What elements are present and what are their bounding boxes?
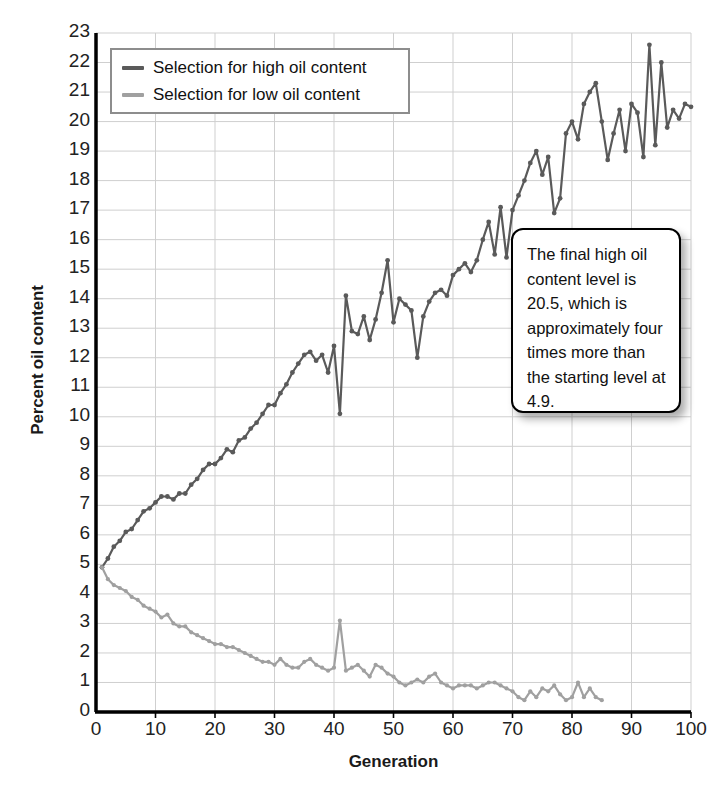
data-point [302, 660, 306, 664]
data-point [671, 107, 676, 112]
data-point [582, 695, 586, 699]
y-axis-tick-label: 19 [48, 138, 90, 160]
data-point [106, 556, 111, 561]
y-axis-tick-label: 12 [48, 345, 90, 367]
data-point [350, 329, 355, 334]
data-point [112, 583, 116, 587]
x-axis-tick-label: 30 [245, 718, 305, 740]
data-point [481, 683, 485, 687]
data-point [230, 450, 235, 455]
data-point [272, 663, 276, 667]
data-point [338, 411, 343, 416]
data-point [457, 267, 462, 272]
data-point [528, 161, 533, 166]
data-point [403, 302, 408, 307]
data-point [385, 258, 390, 263]
data-point [665, 125, 670, 130]
data-point [522, 698, 526, 702]
legend-item-low[interactable]: Selection for low oil content [122, 81, 400, 108]
data-point [469, 683, 473, 687]
legend-item-high[interactable]: Selection for high oil content [122, 54, 400, 81]
data-point [552, 683, 556, 687]
data-point [522, 178, 527, 183]
data-point [367, 338, 372, 343]
data-point [260, 411, 265, 416]
data-point [683, 102, 688, 107]
data-point [207, 639, 211, 643]
data-point [118, 586, 122, 590]
data-point [368, 675, 372, 679]
y-axis-tick-label: 13 [48, 315, 90, 337]
legend-label-high: Selection for high oil content [153, 58, 367, 78]
y-axis-tick-label: 9 [48, 433, 90, 455]
data-point [296, 666, 300, 670]
x-axis-tick-label: 10 [126, 718, 186, 740]
data-point [201, 636, 205, 640]
y-axis-tick-label: 4 [48, 581, 90, 603]
data-point [397, 296, 402, 301]
data-point [653, 143, 658, 148]
data-point [594, 695, 598, 699]
data-point [148, 607, 152, 611]
data-point [504, 255, 509, 260]
data-point [189, 482, 194, 487]
data-point [249, 654, 253, 658]
data-point [171, 497, 176, 502]
data-point [492, 252, 497, 257]
data-point [219, 456, 224, 461]
data-point [302, 352, 307, 357]
data-point [391, 320, 396, 325]
data-point [141, 509, 146, 514]
y-axis-tick-label: 15 [48, 256, 90, 278]
data-point [153, 610, 157, 614]
y-axis-tick-label: 14 [48, 286, 90, 308]
y-axis-tick-label: 8 [48, 463, 90, 485]
data-point [451, 686, 455, 690]
legend-swatch-high-icon [122, 66, 144, 70]
data-point [593, 81, 598, 86]
x-axis-tick-label: 60 [423, 718, 483, 740]
data-point [433, 290, 438, 295]
data-point [255, 657, 259, 661]
data-point [599, 119, 604, 124]
data-point [380, 666, 384, 670]
x-axis-title: Generation [96, 752, 691, 772]
data-point [219, 642, 223, 646]
data-point [231, 645, 235, 649]
data-point [421, 680, 425, 684]
data-point [641, 155, 646, 160]
data-point [243, 651, 247, 655]
data-point [463, 683, 467, 687]
x-axis-tick-label: 20 [185, 718, 245, 740]
y-axis-tick-label: 16 [48, 227, 90, 249]
data-point [136, 598, 140, 602]
data-point [409, 680, 413, 684]
data-point [546, 155, 551, 160]
data-point [546, 689, 550, 693]
data-point [386, 672, 390, 676]
data-point [677, 116, 682, 121]
data-point [558, 196, 563, 201]
data-point [415, 355, 420, 360]
data-point [213, 642, 217, 646]
data-point [421, 314, 426, 319]
data-point [427, 675, 431, 679]
data-point [165, 494, 170, 499]
data-point [611, 131, 616, 136]
annotation-callout: The final high oil content level is 20.5… [511, 228, 681, 413]
y-axis-tick-label: 22 [48, 50, 90, 72]
data-point [659, 60, 664, 65]
x-axis-tick-label: 100 [661, 718, 721, 740]
data-point [135, 518, 140, 523]
data-point [576, 680, 580, 684]
data-point [409, 308, 414, 313]
y-axis-tick-label: 2 [48, 640, 90, 662]
data-point [486, 220, 491, 225]
data-point [564, 131, 569, 136]
y-axis-tick-label: 18 [48, 168, 90, 190]
data-point [356, 663, 360, 667]
data-point [629, 102, 634, 107]
data-point [588, 686, 592, 690]
data-point [623, 149, 628, 154]
data-point [261, 660, 265, 664]
